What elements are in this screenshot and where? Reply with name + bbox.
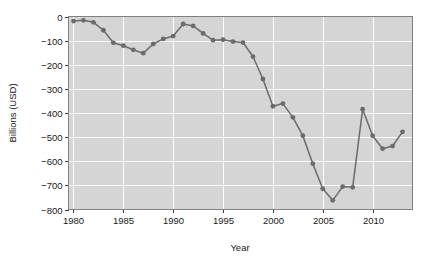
data-point xyxy=(141,51,146,56)
data-point xyxy=(211,38,216,43)
x-tick-label: 2005 xyxy=(313,215,334,226)
data-point xyxy=(241,40,246,45)
y-tick-label: −300 xyxy=(41,84,62,95)
y-tick-label: −100 xyxy=(41,36,62,47)
data-point xyxy=(161,37,166,42)
y-tick-label: 0 xyxy=(57,12,62,23)
x-tick-label: 1985 xyxy=(113,215,134,226)
data-point xyxy=(101,28,106,33)
data-point xyxy=(320,186,325,191)
y-tick-label: −700 xyxy=(41,180,62,191)
data-point xyxy=(81,18,86,23)
data-point xyxy=(380,146,385,151)
y-tick-label: −500 xyxy=(41,132,62,143)
data-point xyxy=(231,39,236,44)
data-point xyxy=(290,115,295,120)
data-point xyxy=(191,24,196,29)
x-tick-label: 1995 xyxy=(213,215,234,226)
x-tick-label: 1980 xyxy=(63,215,84,226)
data-point xyxy=(251,54,256,59)
chart-figure: 0−100−200−300−400−500−600−700−800 198019… xyxy=(0,0,435,260)
data-point xyxy=(280,101,285,106)
data-point xyxy=(271,104,276,109)
data-point xyxy=(400,129,405,134)
y-tick-label: −400 xyxy=(41,108,62,119)
data-point xyxy=(370,133,375,138)
y-tick-label: −200 xyxy=(41,60,62,71)
data-point xyxy=(350,185,355,190)
data-point xyxy=(201,31,206,36)
x-tick-label: 2010 xyxy=(363,215,384,226)
data-point xyxy=(261,77,266,82)
data-point xyxy=(340,184,345,189)
data-point xyxy=(360,107,365,112)
x-tick-label: 2000 xyxy=(263,215,284,226)
y-tick-label: −600 xyxy=(41,156,62,167)
y-axis-tick-labels: 0−100−200−300−400−500−600−700−800 xyxy=(41,12,62,216)
data-point xyxy=(111,40,116,45)
data-point xyxy=(151,42,156,47)
data-point xyxy=(121,43,126,48)
data-point xyxy=(71,19,76,24)
line-chart-plot: 0−100−200−300−400−500−600−700−800 198019… xyxy=(0,0,435,260)
x-axis-tick-labels: 1980198519901995200020052010 xyxy=(63,215,384,226)
y-tick-label: −800 xyxy=(41,205,62,216)
data-point xyxy=(300,133,305,138)
data-point xyxy=(171,34,176,39)
data-point xyxy=(390,144,395,149)
data-point xyxy=(131,47,136,52)
data-point xyxy=(181,22,186,27)
data-point xyxy=(310,161,315,166)
x-tick-label: 1990 xyxy=(163,215,184,226)
data-point xyxy=(91,20,96,25)
data-point xyxy=(330,198,335,203)
data-point xyxy=(221,37,226,42)
y-axis-title: Billions (USD) xyxy=(7,83,18,142)
x-axis-title: Year xyxy=(230,242,249,253)
